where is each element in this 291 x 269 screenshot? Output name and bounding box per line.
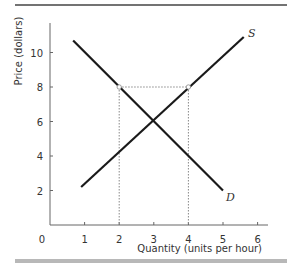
x-axis-title: Quantity (units per hour) — [137, 243, 262, 254]
point-marker — [117, 85, 121, 89]
y-tick-label: 6 — [37, 117, 43, 128]
demand-label: D — [225, 191, 235, 204]
origin-label: 0 — [39, 234, 45, 245]
supply-label: S — [248, 27, 256, 40]
y-tick-label: 4 — [37, 151, 43, 162]
y-tick-label: 10 — [30, 48, 43, 59]
supply-curve — [81, 37, 244, 187]
point-marker — [186, 85, 190, 89]
tick-labels: 123456246810 — [30, 48, 261, 246]
y-tick-label: 2 — [37, 186, 43, 197]
x-tick-label: 2 — [116, 234, 122, 245]
supply-demand-chart: 123456246810 S D 0 Quantity (units per h… — [0, 0, 291, 269]
demand-curve — [73, 40, 223, 190]
axes — [50, 23, 268, 225]
dotted-guides — [119, 87, 188, 225]
y-tick-label: 8 — [37, 82, 43, 93]
y-axis-title: Price (dollars) — [13, 16, 24, 85]
bottom-rule — [15, 259, 287, 263]
x-tick-label: 1 — [81, 234, 87, 245]
